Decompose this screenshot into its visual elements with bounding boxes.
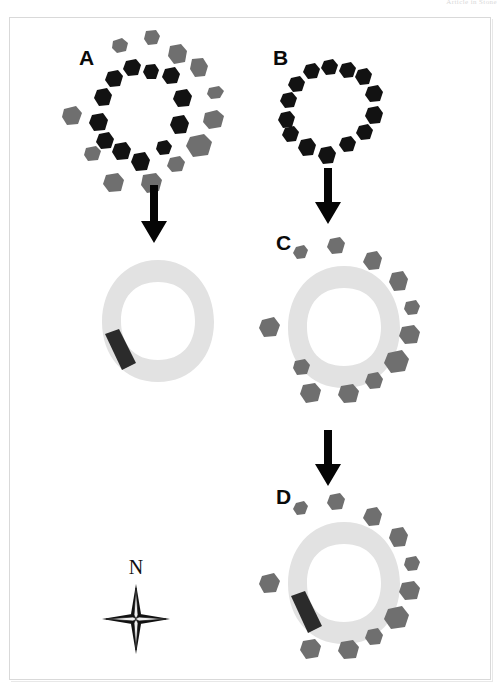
panel-a-result[interactable] — [88, 250, 228, 400]
panel-c-plan — [256, 228, 456, 408]
dark-stone-ring-b — [278, 59, 383, 164]
compass-star-icon — [100, 582, 172, 656]
compass-rose: N — [100, 556, 172, 656]
compass-north-label: N — [100, 556, 172, 579]
bank-ring-a-result — [88, 250, 228, 400]
arrow-b-to-c — [313, 168, 343, 226]
panel-c[interactable]: C — [256, 228, 456, 408]
panel-d-plan — [256, 478, 456, 663]
dark-stone-ring-a — [89, 59, 192, 171]
header-caption: Article in Stone — [446, 0, 497, 6]
panel-d[interactable]: D — [256, 478, 456, 663]
arrow-a-to-bank — [139, 185, 169, 245]
